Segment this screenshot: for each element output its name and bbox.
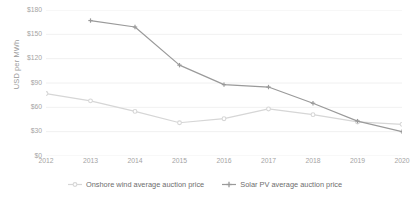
x-tick-label: 2017 [249,158,289,165]
data-point [222,117,226,121]
legend-label-solar-pv: Solar PV average auction price [240,180,342,189]
y-tick-label: $120 [6,55,42,62]
data-point [311,113,315,117]
data-point [400,129,402,133]
data-point [266,85,270,89]
y-tick-label: $60 [6,104,42,111]
chart-legend: Onshore wind average auction price Solar… [0,180,410,189]
x-tick-label: 2015 [160,158,200,165]
y-tick-label: $30 [6,128,42,135]
legend-marker-cross-icon [222,180,236,189]
y-tick-label: $90 [6,80,42,87]
legend-item-solar-pv[interactable]: Solar PV average auction price [222,180,342,189]
y-tick-label: $180 [6,7,42,14]
series-line-1 [91,21,403,132]
x-tick-label: 2020 [382,158,410,165]
plot-area [46,10,402,156]
data-point [400,122,402,126]
data-point [267,107,271,111]
x-tick-label: 2014 [115,158,155,165]
plot-svg [46,10,402,156]
data-point [89,99,93,103]
y-axis-ticks: $180$150$120$90$60$30$0 [0,0,42,201]
data-point [46,92,48,96]
legend-label-onshore-wind: Onshore wind average auction price [86,180,204,189]
line-chart: USD per MWh $180$150$120$90$60$30$0 2012… [0,0,410,201]
x-tick-label: 2019 [338,158,378,165]
x-tick-label: 2012 [26,158,66,165]
data-point [311,101,315,105]
x-axis-ticks: 201220132014201520162017201820192020 [46,158,402,172]
data-point [178,121,182,125]
x-tick-label: 2018 [293,158,333,165]
data-point [88,18,92,22]
legend-item-onshore-wind[interactable]: Onshore wind average auction price [68,180,204,189]
x-tick-label: 2013 [71,158,111,165]
y-tick-label: $150 [6,31,42,38]
legend-marker-circle-icon [68,180,82,189]
x-tick-label: 2016 [204,158,244,165]
data-point [133,109,137,113]
